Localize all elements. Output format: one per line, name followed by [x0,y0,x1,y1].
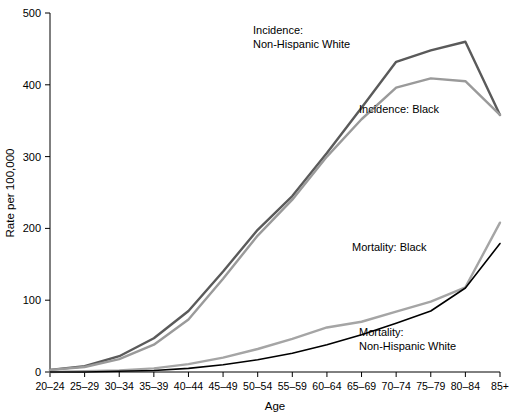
y-tick-label: 400 [23,79,41,91]
series-line-3 [50,243,500,372]
y-axis: 0100200300400500 [23,7,50,378]
x-tick-label: 30–34 [105,380,134,392]
x-tick-label: 60–64 [312,380,341,392]
x-tick-label: 40–44 [174,380,203,392]
x-tick-label: 85+ [491,380,509,392]
x-axis-ticks: 20–2425–2930–3435–3940–4445–4950–5455–59… [35,372,509,392]
x-tick-label: 70–74 [382,380,411,392]
y-tick-label: 100 [23,294,41,306]
chart-canvas: 0100200300400500 20–2425–2930–3435–3940–… [0,0,509,419]
series-line-1 [50,78,500,370]
y-axis-ticks: 0100200300400500 [23,7,50,378]
ann-incidence-nhw-line-1: Non-Hispanic White [253,38,350,50]
ann-mortality-nhw-line-0: Mortality: [359,326,404,338]
y-axis-title: Rate per 100,000 [4,149,16,238]
ann-incidence-black-line-0: Incidence: Black [359,103,440,115]
y-tick-label: 0 [35,366,41,378]
y-tick-label: 200 [23,222,41,234]
x-axis-title: Age [265,400,285,412]
y-tick-label: 300 [23,151,41,163]
x-tick-label: 20–24 [35,380,64,392]
ann-incidence-nhw-line-0: Incidence: [253,24,303,36]
y-tick-label: 500 [23,7,41,19]
x-tick-label: 50–54 [243,380,272,392]
ann-mortality-nhw-line-1: Non-Hispanic White [359,340,456,352]
x-tick-label: 55–59 [278,380,307,392]
x-tick-label: 25–29 [70,380,99,392]
x-tick-label: 35–39 [139,380,168,392]
x-tick-label: 45–49 [208,380,237,392]
ann-mortality-black-line-0: Mortality: Black [352,241,427,253]
series-line-0 [50,42,500,370]
incidence-mortality-by-age-chart: 0100200300400500 20–2425–2930–3435–3940–… [0,0,509,419]
x-axis: 20–2425–2930–3435–3940–4445–4950–5455–59… [35,372,509,392]
x-tick-label: 75–79 [416,380,445,392]
x-tick-label: 80–84 [451,380,480,392]
x-tick-label: 65–69 [347,380,376,392]
chart-series-lines [50,42,500,372]
